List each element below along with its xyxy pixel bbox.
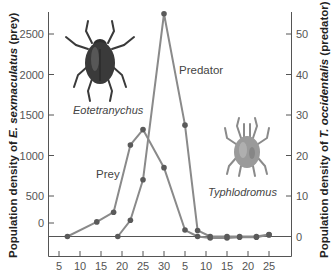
data-point (237, 234, 243, 240)
data-point (140, 177, 146, 183)
data-point (207, 234, 213, 240)
data-point (128, 218, 134, 224)
data-point (266, 232, 272, 238)
data-point (182, 122, 188, 128)
right-tick-label: 10 (296, 190, 308, 202)
data-point (195, 228, 201, 234)
data-point (115, 234, 121, 240)
right-tick-label: 50 (296, 28, 308, 40)
x-tick-label: 15 (221, 260, 233, 272)
x-tick-label: 15 (95, 260, 107, 272)
x-tick-label: 10 (200, 260, 212, 272)
typhlodromus-mite-icon (225, 118, 269, 176)
predator-species-label: Typhlodromus (208, 186, 277, 198)
right-axis-title: Population density of T. occidentalis (p… (318, 1, 330, 258)
data-point (182, 227, 188, 233)
data-point (224, 234, 230, 240)
predator-series-label: Predator (179, 64, 223, 76)
x-tick-label: 25 (263, 260, 275, 272)
data-point (140, 127, 146, 133)
x-tick-label: 20 (116, 260, 128, 272)
data-point (161, 165, 167, 171)
x-tick-label: 25 (137, 260, 149, 272)
left-axis-title: Population density of E. sexmaculatus (p… (7, 12, 19, 258)
right-tick-label: 0 (296, 231, 302, 243)
prey-series-label: Prey (96, 168, 120, 180)
x-tick-label: 20 (242, 260, 254, 272)
left-tick-label: 2000 (20, 69, 44, 81)
right-tick-label: 30 (296, 109, 308, 121)
left-tick-label: 1500 (20, 109, 44, 121)
data-point (195, 234, 201, 240)
right-axis-ticks: 50403020100 (286, 28, 308, 243)
data-point (161, 11, 167, 17)
x-axis-ticks: 51015202530510152025 (56, 251, 275, 272)
right-tick-label: 40 (296, 69, 308, 81)
right-tick-label: 20 (296, 150, 308, 162)
eotetranychus-mite-icon (66, 21, 134, 101)
x-tick-label: 10 (74, 260, 86, 272)
x-tick-label: 30 (158, 260, 170, 272)
predator-prey-chart: 25002000150010005000 50403020100 5101520… (0, 0, 336, 277)
series-line (118, 14, 269, 237)
left-tick-label: 2500 (20, 28, 44, 40)
left-tick-label: 0 (38, 217, 44, 229)
data-point (94, 219, 100, 225)
predator-series (115, 11, 272, 239)
x-tick-label: 5 (182, 260, 188, 272)
x-tick-label: 5 (56, 260, 62, 272)
data-point (65, 234, 71, 240)
left-tick-label: 1000 (20, 150, 44, 162)
data-point (128, 142, 134, 148)
left-tick-label: 500 (26, 190, 44, 202)
data-point (254, 234, 260, 240)
data-point (111, 209, 117, 215)
prey-species-label: Eotetranychus (73, 104, 144, 116)
